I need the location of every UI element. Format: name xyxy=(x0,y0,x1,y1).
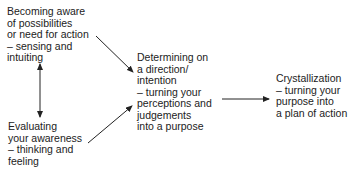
node-becoming-aware: Becoming aware of possibilities or need … xyxy=(7,6,89,64)
arrow-aware-determine xyxy=(96,36,133,72)
node-determining: Determining on a direction/ intention – … xyxy=(137,52,212,133)
arrow-evaluate-determine xyxy=(88,106,132,143)
node-evaluating: Evaluating your awareness – thinking and… xyxy=(8,121,82,167)
node-crystallization: Crystallization – turning your purpose i… xyxy=(276,73,347,119)
